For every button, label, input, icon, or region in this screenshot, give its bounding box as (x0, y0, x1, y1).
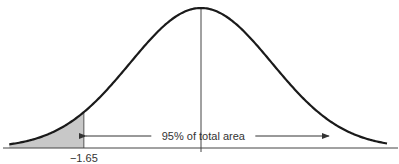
critical-value-tick-label: −1.65 (70, 152, 98, 164)
annotation-label: 95% of total area (162, 130, 246, 142)
normal-curve (9, 8, 387, 144)
normal-distribution-chart: 95% of total area −1.65 (0, 0, 399, 164)
